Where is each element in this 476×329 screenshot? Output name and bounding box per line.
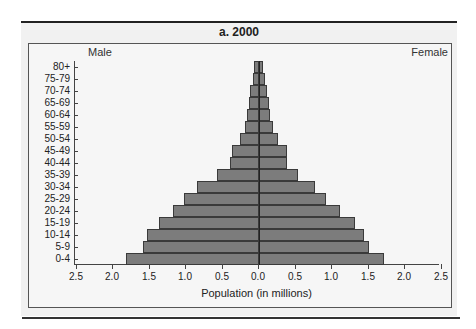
bar-male-55-59 <box>245 121 259 133</box>
bar-male-70-74 <box>250 85 259 97</box>
bar-female-65-69 <box>259 97 269 109</box>
bar-female-25-29 <box>259 193 326 205</box>
bar-female-30-34 <box>259 181 315 193</box>
x-tick-label: 2.0 <box>389 271 419 283</box>
y-tick-label: 10-14 <box>10 229 70 241</box>
bar-female-20-24 <box>259 205 340 217</box>
bar-female-50-54 <box>259 133 278 145</box>
x-tick-label: 0.5 <box>280 271 310 283</box>
zero-axis-line <box>259 61 260 265</box>
x-tick <box>441 264 442 269</box>
x-tick-label: 1.0 <box>170 271 200 283</box>
y-tick-label: 65-69 <box>10 97 70 109</box>
y-tick <box>74 199 78 200</box>
bar-female-45-49 <box>259 145 287 157</box>
x-tick-label: 0.5 <box>207 271 237 283</box>
x-tick <box>76 264 77 269</box>
y-tick <box>74 247 78 248</box>
y-tick-label: 80+ <box>10 61 70 73</box>
chart-title: a. 2000 <box>21 23 457 42</box>
y-tick-label: 45-49 <box>10 145 70 157</box>
bottom-rule <box>22 317 460 319</box>
y-tick <box>74 91 78 92</box>
bar-male-35-39 <box>217 169 259 181</box>
y-tick <box>74 67 78 68</box>
x-tick <box>295 264 296 269</box>
x-tick-label: 2.5 <box>61 271 91 283</box>
bar-female-70-74 <box>259 85 267 97</box>
x-axis-title: Population (in millions) <box>74 287 439 300</box>
y-tick <box>74 127 78 128</box>
female-label: Female <box>411 45 448 59</box>
bar-female-5-9 <box>259 241 369 253</box>
y-tick <box>74 79 78 80</box>
x-tick <box>368 264 369 269</box>
bar-female-40-44 <box>259 157 287 169</box>
y-tick-label: 25-29 <box>10 193 70 205</box>
x-tick-label: 1.0 <box>316 271 346 283</box>
x-tick-label: 0.0 <box>243 271 273 283</box>
x-tick-label: 1.5 <box>353 271 383 283</box>
y-tick-label: 0-4 <box>10 253 70 265</box>
x-tick <box>331 264 332 269</box>
bar-male-20-24 <box>173 205 259 217</box>
bar-female-60-64 <box>259 109 270 121</box>
bar-male-60-64 <box>247 109 259 121</box>
x-tick <box>258 264 259 269</box>
bar-male-25-29 <box>184 193 259 205</box>
y-tick-label: 50-54 <box>10 133 70 145</box>
x-tick <box>404 264 405 269</box>
x-tick-label: 1.5 <box>134 271 164 283</box>
x-tick <box>222 264 223 269</box>
bar-male-5-9 <box>143 241 259 253</box>
bar-male-40-44 <box>230 157 259 169</box>
bar-male-65-69 <box>249 97 259 109</box>
y-tick-label: 40-44 <box>10 157 70 169</box>
bar-male-0-4 <box>126 253 259 265</box>
y-tick <box>74 235 78 236</box>
y-tick-label: 75-79 <box>10 73 70 85</box>
y-tick-label: 60-64 <box>10 109 70 121</box>
bar-male-50-54 <box>240 133 259 145</box>
y-tick-label: 35-39 <box>10 169 70 181</box>
bar-female-10-14 <box>259 229 364 241</box>
y-tick-label: 70-74 <box>10 85 70 97</box>
y-tick <box>74 115 78 116</box>
y-tick <box>74 187 78 188</box>
male-label: Male <box>88 45 112 59</box>
y-tick <box>74 163 78 164</box>
y-tick-label: 15-19 <box>10 217 70 229</box>
plot-area <box>74 61 439 265</box>
x-tick <box>112 264 113 269</box>
x-tick <box>149 264 150 269</box>
x-tick-label: 2.0 <box>97 271 127 283</box>
y-tick <box>74 139 78 140</box>
y-tick-label: 5-9 <box>10 241 70 253</box>
bar-female-55-59 <box>259 121 273 133</box>
bar-female-15-19 <box>259 217 355 229</box>
y-tick-label: 30-34 <box>10 181 70 193</box>
bar-male-10-14 <box>147 229 259 241</box>
bar-male-45-49 <box>232 145 259 157</box>
bar-male-30-34 <box>197 181 259 193</box>
bar-female-35-39 <box>259 169 298 181</box>
y-tick-label: 20-24 <box>10 205 70 217</box>
bar-female-0-4 <box>259 253 384 265</box>
bar-male-15-19 <box>159 217 259 229</box>
y-tick <box>74 175 78 176</box>
y-tick-label: 55-59 <box>10 121 70 133</box>
y-tick <box>74 223 78 224</box>
y-tick <box>74 151 78 152</box>
y-tick <box>74 211 78 212</box>
y-tick <box>74 259 78 260</box>
y-tick <box>74 103 78 104</box>
x-tick-label: 2.5 <box>426 271 456 283</box>
x-tick <box>185 264 186 269</box>
